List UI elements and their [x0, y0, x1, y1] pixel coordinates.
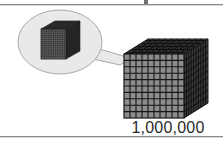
bottom-divider-rule-shadow [0, 137, 223, 138]
figure-root: 1,000,000 [0, 0, 223, 143]
cube-count-label: 1,000,000 [118, 119, 218, 137]
large-cube [124, 39, 208, 118]
small-cube [41, 21, 80, 59]
